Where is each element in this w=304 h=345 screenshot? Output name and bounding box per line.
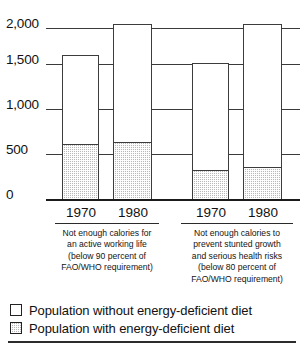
group-caption-working-life: Not enough calories for an active workin… [38,228,176,274]
group-caption-line: (below 80 percent of [167,262,304,273]
y-axis-label-1500: 1,500 [6,52,39,67]
group-caption-line: Not enough calories to [167,228,304,239]
chart-legend: Population without energy-deficient diet… [10,301,300,337]
group-rule-stunted-growth [181,223,293,224]
footer-divider [8,341,296,343]
legend-item-without-deficient-diet: Population without energy-deficient diet [10,301,300,319]
bar-segment-without-1970-working-life [62,55,99,145]
legend-label-with-deficient-diet: Population with energy-deficient diet [29,321,234,336]
x-axis-tick-1970-stunted-growth: 1970 [185,205,237,220]
x-axis-tick-1980-stunted-growth: 1980 [237,205,289,220]
group-caption-line: an active working life [38,239,176,250]
group-caption-line: FAO/WHO requirement) [38,262,176,273]
x-axis-tick-1970-working-life: 1970 [55,205,107,220]
bar-chart-figure: 2,000 1,500 1,000 500 0 1970 1980 1970 1… [0,0,304,345]
legend-item-with-deficient-diet: Population with energy-deficient diet [10,319,300,337]
bar-segment-with-1980-working-life [113,142,152,200]
x-axis-baseline [46,199,300,201]
x-axis-tick-1980-working-life: 1980 [107,205,159,220]
bar-segment-with-1970-stunted-growth [192,170,229,200]
bar-segment-with-1980-stunted-growth [243,167,282,200]
group-rule-working-life [55,223,159,224]
group-caption-line: Not enough calories for [38,228,176,239]
bar-segment-with-1970-working-life [62,144,99,200]
group-caption-stunted-growth: Not enough calories to prevent stunted g… [167,228,304,285]
y-axis-label-0: 0 [6,187,13,202]
legend-label-without-deficient-diet: Population without energy-deficient diet [29,303,252,318]
bar-segment-without-1980-working-life [113,24,152,143]
group-caption-line: prevent stunted growth [167,239,304,250]
bar-segment-without-1980-stunted-growth [243,24,282,168]
bar-segment-without-1970-stunted-growth [192,63,229,171]
group-caption-line: and serious health risks [167,251,304,262]
y-axis-label-500: 500 [6,142,28,157]
y-axis-label-1000: 1,000 [6,97,39,112]
group-caption-line: FAO/WHO requirement) [167,274,304,285]
plot-area: 2,000 1,500 1,000 500 0 [0,0,304,215]
group-caption-line: (below 90 percent of [38,251,176,262]
legend-swatch-white-icon [10,304,22,316]
y-axis-label-2000: 2,000 [6,16,39,31]
legend-swatch-hatched-icon [10,322,22,334]
